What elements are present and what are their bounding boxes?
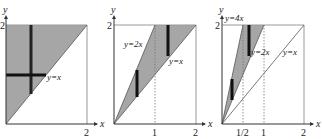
panel-3-y-arrow-icon (220, 15, 224, 19)
panel-1: x y 2 2 y=x (0, 4, 105, 138)
panel-3-x-tick-1: 1 (261, 127, 266, 138)
panel-2: x y 1 2 2 y=2x y=x (107, 4, 213, 138)
panel-1-y-tick-2: 2 (0, 20, 5, 31)
panel-3: x y 1/2 1 2 2 y=4x y=2x y=x (215, 4, 321, 138)
panel-3-label-y-eq-4x: y=4x (224, 13, 244, 23)
panel-1-y-label: y (2, 4, 8, 15)
panel-2-x-label: x (207, 118, 213, 129)
panel-3-x-arrow-icon (310, 122, 314, 126)
panel-1-label-y-eq-x: y=x (46, 72, 61, 82)
panel-3-x-tick-2: 2 (301, 127, 306, 138)
panel-1-x-tick-2: 2 (84, 127, 89, 138)
panel-3-label-y-eq-2x: y=2x (250, 47, 270, 57)
panel-1-x-arrow-icon (94, 122, 98, 126)
panel-1-x-label: x (99, 118, 105, 129)
panel-3-x-label: x (315, 118, 321, 129)
panel-2-x-arrow-icon (202, 122, 206, 126)
panel-2-y-tick-2: 2 (107, 20, 112, 31)
panel-2-y-label: y (110, 4, 116, 15)
panel-3-x-tick-half: 1/2 (236, 127, 249, 138)
panel-2-label-y-eq-x: y=x (168, 56, 183, 66)
panel-3-label-y-eq-x: y=x (282, 47, 297, 57)
panel-2-x-tick-1: 1 (152, 127, 157, 138)
panel-3-y-label: y (218, 4, 224, 15)
panel-2-y-arrow-icon (112, 15, 116, 19)
figure-canvas: x y 2 2 y=x x y 1 2 2 y=2x y=x (0, 0, 323, 139)
panel-2-label-y-eq-2x: y=2x (123, 39, 143, 49)
panel-3-y-tick-2: 2 (215, 20, 220, 31)
panel-1-y-arrow-icon (4, 15, 8, 19)
panel-2-x-tick-2: 2 (193, 127, 198, 138)
